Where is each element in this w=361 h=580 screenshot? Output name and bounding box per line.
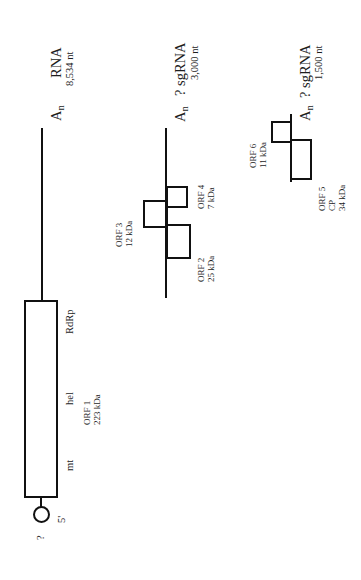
polya-a: A [297,111,313,121]
orf5-mass: 34 kDa [337,185,347,211]
orf2-box [166,224,191,259]
orf2-mass: 25 kDa [206,256,216,282]
sgrna2-polya: An [297,105,316,121]
orf5-box [290,139,312,180]
sgrna2-title: ? sgRNA [297,44,313,98]
orf6-name: ORF 6 [248,142,258,168]
orf6-label: ORF 6 11 kDa [248,142,268,168]
cap-structure-circle [33,506,50,523]
polya-subscript: n [304,105,315,110]
five-prime-label: 5' [56,516,68,523]
orf4-label: ORF 4 7 kDa [196,185,216,209]
orf5-product: CP [327,185,337,211]
orf6-mass: 11 kDa [258,142,268,168]
sgrna2-length: 1,500 nt [313,46,325,80]
orf5-label: ORF 5 CP 34 kDa [317,185,347,211]
polya-subscript: n [179,106,190,111]
orf1-box [24,300,58,498]
orf3-box [143,200,168,228]
orf5-name: ORF 5 [317,185,327,211]
orf6-box [271,121,292,143]
polya-a: A [172,112,188,122]
domain-label-rdrp: RdRp [64,309,76,334]
sgrna1-length: 3,000 nt [189,46,201,80]
genomic-rna-backbone [41,128,43,301]
genome-organization-diagram: RNA 8,534 nt An RdRp hel mt ORF 1 223 kD… [0,0,361,580]
genomic-rna-polya: An [48,105,67,121]
sgrna1-title: ? sgRNA [172,42,188,96]
polya-a: A [48,111,64,121]
cap-query-label: ? [35,535,47,540]
orf1-name: ORF 1 [82,394,92,425]
genomic-rna-length: 8,534 nt [64,52,76,86]
polya-subscript: n [55,105,66,110]
orf4-name: ORF 4 [196,185,206,209]
orf1-label: ORF 1 223 kDa [82,394,102,425]
domain-label-mt: mt [64,460,76,471]
orf2-label: ORF 2 25 kDa [196,256,216,282]
orf4-box [166,186,188,208]
domain-label-hel: hel [64,392,76,405]
orf3-mass: 12 kDa [124,221,134,247]
orf1-mass: 223 kDa [92,394,102,425]
orf4-mass: 7 kDa [206,185,216,209]
orf3-label: ORF 3 12 kDa [114,221,134,247]
orf3-name: ORF 3 [114,221,124,247]
sgrna1-polya: An [172,106,191,122]
genomic-rna-title: RNA [48,47,64,78]
orf2-name: ORF 2 [196,256,206,282]
